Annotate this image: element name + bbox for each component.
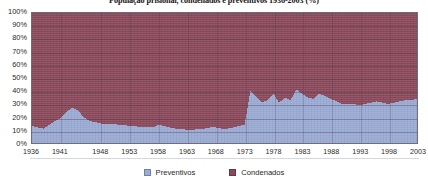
scan-edge-line (30, 158, 419, 159)
gridline-horizontal (32, 39, 417, 40)
gridline-horizontal (32, 26, 417, 27)
x-axis-tick-label: 1968 (208, 147, 224, 156)
y-axis-tick-label: 40% (12, 87, 27, 95)
y-axis-tick-label: 10% (12, 127, 27, 135)
chart-figure: População prisional, condenados e preven… (0, 0, 428, 181)
y-axis-tick-label: 80% (12, 34, 27, 42)
legend-item[interactable]: Condenados (229, 168, 284, 177)
gridline-vertical (101, 13, 102, 143)
gridline-vertical (61, 13, 62, 143)
gridline-horizontal (32, 119, 417, 120)
chart-legend: PreventivosCondenados (0, 166, 428, 179)
plot-area (31, 12, 418, 144)
y-axis-tick-label: 100% (8, 8, 27, 16)
chart-title: População prisional, condenados e preven… (0, 0, 428, 5)
x-axis-tick-label: 1983 (294, 147, 310, 156)
gridline-vertical (361, 13, 362, 143)
gridline-vertical (246, 13, 247, 143)
gridline-horizontal (32, 132, 417, 133)
legend-item[interactable]: Preventivos (144, 168, 196, 177)
x-axis-tick-label: 1958 (150, 147, 166, 156)
y-axis-tick-label: 50% (12, 74, 27, 82)
stacked-area-series (32, 13, 417, 143)
y-axis-tick-label: 60% (12, 61, 27, 69)
legend-label: Preventivos (156, 168, 196, 177)
x-axis-tick-label: 1998 (381, 147, 397, 156)
gridline-vertical (390, 13, 391, 143)
x-axis-tick-label: 1936 (23, 147, 39, 156)
x-axis-tick-label: 1948 (92, 147, 108, 156)
gridline-vertical (275, 13, 276, 143)
gridline-vertical (303, 13, 304, 143)
x-axis-tick-label: 1953 (121, 147, 137, 156)
gridline-horizontal (32, 92, 417, 93)
gridline-vertical (188, 13, 189, 143)
gridline-vertical (130, 13, 131, 143)
gridline-horizontal (32, 53, 417, 54)
gridline-horizontal (32, 79, 417, 80)
gridline-horizontal (32, 66, 417, 67)
y-axis-tick-label: 30% (12, 100, 27, 108)
x-axis-tick-label: 2003 (410, 147, 426, 156)
gridline-vertical (159, 13, 160, 143)
gridline-vertical (217, 13, 218, 143)
y-axis-tick-label: 70% (12, 48, 27, 56)
y-axis-tick-label: 20% (12, 114, 27, 122)
x-axis-tick-label: 1988 (323, 147, 339, 156)
x-axis-tick-label: 1993 (352, 147, 368, 156)
x-axis-tick-label: 1973 (237, 147, 253, 156)
y-axis-labels: 0%10%20%30%40%50%60%70%80%90%100% (0, 12, 29, 144)
x-axis-tick-label: 1941 (52, 147, 68, 156)
gridline-vertical (332, 13, 333, 143)
legend-label: Condenados (241, 168, 284, 177)
legend-swatch-icon (144, 169, 151, 176)
x-axis-tick-label: 1978 (266, 147, 282, 156)
gridline-horizontal (32, 105, 417, 106)
legend-swatch-icon (229, 169, 236, 176)
x-axis-tick-label: 1963 (179, 147, 195, 156)
y-axis-tick-label: 90% (12, 21, 27, 29)
